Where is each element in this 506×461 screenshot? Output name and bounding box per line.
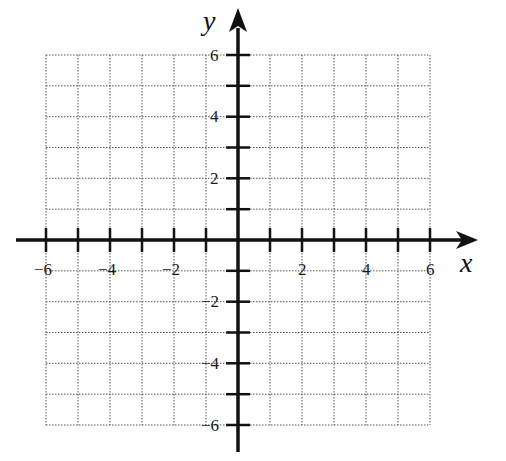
y-tick-label: −4 [201, 354, 220, 373]
x-tick-label: 4 [362, 260, 371, 279]
x-axis-label: x [459, 247, 473, 278]
y-tick-label: 6 [210, 46, 219, 65]
x-axis [16, 228, 478, 252]
y-tick-label: −2 [201, 292, 219, 311]
y-tick-label: 2 [210, 169, 219, 188]
x-tick-label: −6 [34, 260, 52, 279]
y-axis [226, 8, 250, 452]
x-tick-label: 2 [298, 260, 307, 279]
y-tick-label: 4 [210, 107, 219, 126]
y-tick-label: −6 [201, 416, 219, 435]
y-axis-label: y [200, 5, 216, 36]
coordinate-plane: y x −6 −4 −2 2 4 6 6 4 2 −2 −4 −6 [0, 0, 506, 461]
x-tick-label: −4 [98, 260, 117, 279]
x-tick-label: −2 [162, 260, 180, 279]
x-tick-label: 6 [426, 260, 435, 279]
